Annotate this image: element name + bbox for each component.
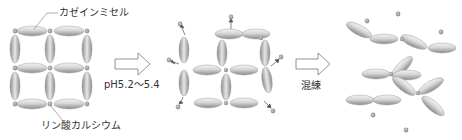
ph-condition-label: pH5.2〜5.4 bbox=[104, 79, 160, 91]
casein-micelles bbox=[344, 19, 456, 119]
right-arrow-icon bbox=[296, 53, 330, 75]
casein-micelle-label: カゼインミセル bbox=[59, 7, 129, 19]
arrow-ph-step bbox=[115, 53, 150, 75]
kneading-label: 混練 bbox=[301, 80, 321, 92]
stage-acidified-lattice bbox=[167, 15, 284, 114]
right-arrow-icon bbox=[115, 53, 150, 75]
arrow-kneading-step bbox=[296, 53, 330, 75]
stage-kneaded-fibers bbox=[344, 12, 456, 133]
calcium-phosphate-label: リン酸カルシウム bbox=[41, 120, 121, 132]
stage-initial-lattice bbox=[10, 13, 92, 121]
casein-micelle-diagram bbox=[0, 0, 462, 140]
